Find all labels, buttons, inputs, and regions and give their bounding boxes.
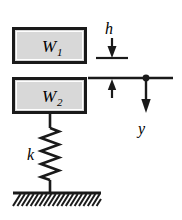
lower-mass-group: W 2: [14, 79, 86, 113]
upper-mass-label: W: [42, 37, 58, 56]
contact-datum-tick: [108, 79, 116, 98]
drop-height-label: h: [105, 20, 113, 37]
upper-mass-subscript: 1: [57, 46, 63, 58]
displacement-dimension: y: [136, 75, 151, 138]
displacement-arrowhead: [141, 99, 150, 113]
lower-mass-label: W: [42, 87, 58, 106]
spring-group: k: [27, 112, 59, 193]
spring-constant-label: k: [27, 146, 35, 163]
datum-tick-arrowhead: [108, 79, 116, 90]
ground-group: [13, 193, 101, 206]
drop-height-arrowhead: [108, 46, 117, 58]
drop-height-dimension: h: [96, 20, 128, 58]
ground-hatching: [13, 194, 101, 206]
displacement-label: y: [136, 120, 146, 138]
upper-mass-group: W 1: [14, 29, 86, 63]
figure-canvas: W 1 W 2 k: [0, 0, 182, 220]
mechanics-figure: W 1 W 2 k: [0, 0, 182, 220]
lower-mass-subscript: 2: [57, 96, 63, 108]
spring-coil: [41, 128, 59, 180]
